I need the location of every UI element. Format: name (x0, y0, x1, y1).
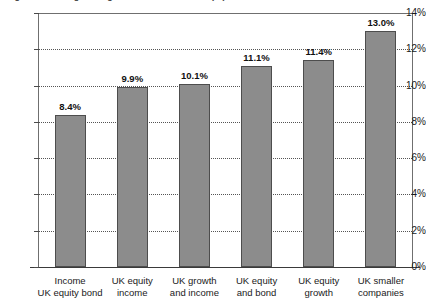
bar[interactable] (55, 115, 86, 267)
y-axis-tick-label: 4% (392, 189, 426, 199)
gridline (39, 49, 412, 50)
y-tick-mark (34, 194, 39, 195)
y-tick-mark (34, 86, 39, 87)
y-tick-mark (34, 49, 39, 50)
gridline (39, 158, 412, 159)
gridline (39, 194, 412, 195)
bar[interactable] (179, 84, 210, 267)
gridline (39, 231, 412, 232)
bar-value-label: 10.1% (164, 71, 224, 81)
y-axis-tick-label: 2% (392, 226, 426, 236)
y-tick-mark (34, 267, 39, 268)
bar-value-label: 13.0% (351, 18, 411, 28)
bar[interactable] (117, 87, 148, 267)
y-tick-mark (34, 122, 39, 123)
bar[interactable] (303, 60, 334, 267)
chart-title: Figure 1: Average charges for UK retail … (6, 0, 226, 1)
bar[interactable] (241, 66, 272, 267)
gridline (39, 122, 412, 123)
gridline (39, 86, 412, 87)
y-axis (0, 0, 34, 308)
plot-area (38, 13, 413, 267)
y-axis-tick-label: 0% (392, 262, 426, 272)
y-axis-tick-label: 6% (392, 153, 426, 163)
y-tick-mark (34, 231, 39, 232)
x-axis-label-line: UK smaller (341, 275, 421, 287)
x-axis-category-label: UK smallercompanies (341, 275, 421, 298)
y-axis-tick-label: 10% (392, 81, 426, 91)
bar-value-label: 9.9% (102, 74, 162, 84)
bar[interactable] (365, 31, 396, 267)
bar-value-label: 8.4% (40, 102, 100, 112)
y-tick-mark (34, 13, 39, 14)
x-axis-label-line: companies (341, 287, 421, 299)
x-axis-baseline (30, 267, 420, 268)
y-tick-mark (34, 158, 39, 159)
bar-value-label: 11.4% (289, 47, 349, 57)
y-axis-tick-label: 8% (392, 117, 426, 127)
bar-value-label: 11.1% (227, 53, 287, 63)
y-axis-tick-label: 12% (392, 44, 426, 54)
y-axis-tick-label: 14% (392, 8, 426, 18)
